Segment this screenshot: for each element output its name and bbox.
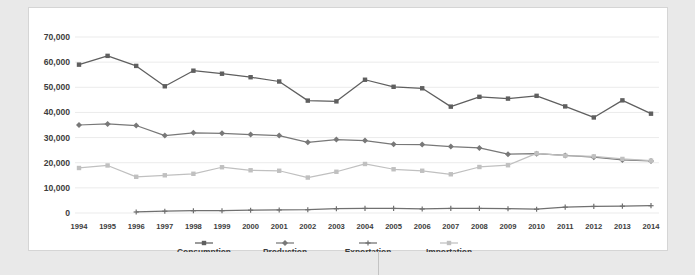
x-axis-tick-label: 1998: [185, 222, 202, 231]
y-axis-tick-label: 30,000: [44, 133, 71, 143]
x-axis-tick-label: 1996: [128, 222, 145, 231]
data-point: [505, 151, 511, 157]
data-point: [362, 138, 368, 144]
data-point: [391, 206, 396, 211]
x-axis-tick-label: 2004: [357, 222, 375, 231]
y-axis-tick-labels: 010,00020,00030,00040,00050,00060,00070,…: [44, 32, 71, 218]
legend-item-importation[interactable]: Importation: [426, 241, 472, 252]
data-point: [105, 54, 109, 58]
x-axis-tick-label: 1997: [156, 222, 173, 231]
x-axis-tick-label: 1999: [214, 222, 231, 231]
data-point: [620, 157, 624, 161]
chart-figure-box: 010,00020,00030,00040,00050,00060,00070,…: [28, 7, 668, 251]
y-axis-tick-label: 0: [65, 208, 70, 218]
legend-swatch-marker: [365, 240, 370, 245]
data-point: [449, 104, 453, 108]
data-point: [505, 206, 510, 211]
gridlines: [75, 37, 659, 213]
data-point: [277, 169, 281, 173]
data-point: [477, 165, 481, 169]
series-importation: [77, 151, 653, 180]
x-axis-tick-labels: 1994199519961997199819992000200120022003…: [71, 222, 661, 231]
data-point: [219, 130, 225, 136]
page-fold-divider: [378, 252, 379, 275]
data-point: [362, 206, 367, 211]
data-point: [363, 78, 367, 82]
data-point: [134, 175, 138, 179]
x-axis-tick-label: 2012: [585, 222, 602, 231]
data-point: [420, 169, 424, 173]
data-point: [363, 162, 367, 166]
data-point: [563, 205, 568, 210]
y-axis-tick-label: 20,000: [44, 158, 71, 168]
x-axis-tick-label: 2009: [500, 222, 517, 231]
data-point: [334, 99, 338, 103]
data-point: [134, 64, 138, 68]
data-point: [649, 111, 653, 115]
data-point: [534, 207, 539, 212]
data-point: [191, 172, 195, 176]
data-point: [306, 98, 310, 102]
legend-item-production[interactable]: Production: [263, 240, 307, 252]
data-point: [649, 159, 653, 163]
legend-label: Exportation: [345, 247, 392, 252]
data-point: [591, 204, 596, 209]
legend-swatch-marker: [447, 241, 451, 245]
data-point: [248, 208, 253, 213]
data-series-group: [76, 54, 654, 215]
data-point: [391, 141, 397, 147]
x-axis-tick-label: 2002: [299, 222, 316, 231]
line-chart: 010,00020,00030,00040,00050,00060,00070,…: [29, 8, 669, 252]
data-point: [305, 207, 310, 212]
data-point: [563, 153, 567, 157]
x-axis-tick-label: 2007: [442, 222, 459, 231]
data-point: [191, 68, 195, 72]
data-point: [448, 144, 454, 150]
data-point: [248, 75, 252, 79]
data-point: [190, 130, 196, 136]
chart-plot-area: 010,00020,00030,00040,00050,00060,00070,…: [29, 8, 669, 252]
data-point: [477, 95, 481, 99]
data-point: [420, 206, 425, 211]
data-point: [506, 96, 510, 100]
data-point: [105, 121, 111, 127]
chart-legend: ConsumptionProductionExportationImportat…: [177, 240, 472, 252]
y-axis-tick-label: 50,000: [44, 82, 71, 92]
data-point: [506, 163, 510, 167]
y-axis-tick-label: 70,000: [44, 32, 71, 42]
data-point: [334, 206, 339, 211]
data-point: [220, 165, 224, 169]
x-axis-tick-label: 2003: [328, 222, 345, 231]
x-axis-tick-label: 2008: [471, 222, 488, 231]
data-point: [534, 151, 538, 155]
data-point: [419, 142, 425, 148]
legend-label: Consumption: [177, 247, 231, 252]
legend-label: Importation: [426, 247, 472, 252]
legend-item-consumption[interactable]: Consumption: [177, 241, 231, 252]
x-axis-tick-label: 1995: [99, 222, 117, 231]
data-point: [648, 203, 653, 208]
x-axis-tick-label: 2000: [242, 222, 259, 231]
data-point: [306, 175, 310, 179]
data-point: [448, 206, 453, 211]
data-point: [420, 86, 424, 90]
series-consumption: [77, 54, 653, 120]
legend-swatch-marker: [202, 241, 206, 245]
data-point: [105, 163, 109, 167]
x-axis-tick-label: 2013: [614, 222, 631, 231]
data-point: [133, 123, 139, 129]
legend-item-exportation[interactable]: Exportation: [345, 240, 392, 252]
legend-label: Production: [263, 247, 307, 252]
data-point: [477, 206, 482, 211]
y-axis-tick-label: 10,000: [44, 183, 71, 193]
data-point: [277, 79, 281, 83]
data-point: [77, 166, 81, 170]
x-axis-tick-label: 2006: [414, 222, 431, 231]
data-point: [592, 154, 596, 158]
data-point: [449, 172, 453, 176]
page-root: 010,00020,00030,00040,00050,00060,00070,…: [0, 0, 695, 275]
data-point: [391, 85, 395, 89]
legend-swatch-marker: [282, 240, 288, 246]
data-point: [277, 207, 282, 212]
x-axis-tick-label: 2001: [271, 222, 289, 231]
